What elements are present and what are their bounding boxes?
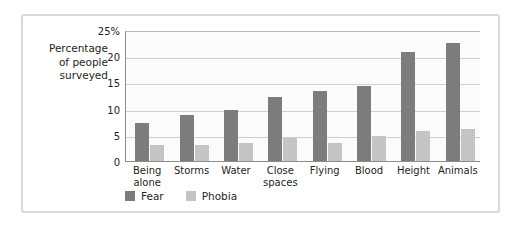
y-tick-label: 25% bbox=[98, 26, 120, 37]
x-tick-label: Closespaces bbox=[263, 165, 298, 189]
x-tick-label: Water bbox=[221, 165, 251, 177]
x-tick-label-line: spaces bbox=[263, 177, 298, 189]
y-axis-ticks: 0510152025% bbox=[125, 31, 480, 162]
y-axis-title-line-3: surveyed bbox=[24, 69, 108, 83]
y-axis-title: Percentage of people surveyed bbox=[24, 42, 108, 83]
x-tick-label-line: Animals bbox=[438, 165, 478, 177]
legend-item-phobia: Phobia bbox=[186, 190, 237, 202]
x-tick-label: Beingalone bbox=[133, 165, 161, 189]
chart-legend: Fear Phobia bbox=[125, 190, 237, 202]
x-tick-label: Flying bbox=[310, 165, 340, 177]
x-tick-label-line: Close bbox=[263, 165, 298, 177]
x-tick-label-line: Blood bbox=[355, 165, 383, 177]
y-tick-label: 20 bbox=[107, 52, 120, 63]
x-tick-label-line: Water bbox=[221, 165, 251, 177]
legend-item-fear: Fear bbox=[125, 190, 164, 202]
y-tick-label: 0 bbox=[114, 157, 120, 168]
y-tick-label: 10 bbox=[107, 104, 120, 115]
x-tick-label-line: Height bbox=[397, 165, 430, 177]
x-tick-label: Storms bbox=[174, 165, 209, 177]
x-tick-label-line: Storms bbox=[174, 165, 209, 177]
x-tick-label-line: Flying bbox=[310, 165, 340, 177]
y-tick-label: 15 bbox=[107, 78, 120, 89]
x-tick-label: Blood bbox=[355, 165, 383, 177]
x-tick-label-line: Being bbox=[133, 165, 161, 177]
legend-label-phobia: Phobia bbox=[202, 190, 237, 202]
chart-figure: Percentage of people surveyed 0510152025… bbox=[0, 0, 522, 228]
legend-swatch-phobia-icon bbox=[186, 191, 196, 201]
x-tick-label: Animals bbox=[438, 165, 478, 177]
y-axis-title-line-2: of people bbox=[24, 56, 108, 70]
legend-label-fear: Fear bbox=[141, 190, 164, 202]
y-axis-title-line-1: Percentage bbox=[24, 42, 108, 56]
legend-swatch-fear-icon bbox=[125, 191, 135, 201]
x-tick-label-line: alone bbox=[133, 177, 161, 189]
x-tick-label: Height bbox=[397, 165, 430, 177]
y-tick-label: 5 bbox=[114, 130, 120, 141]
